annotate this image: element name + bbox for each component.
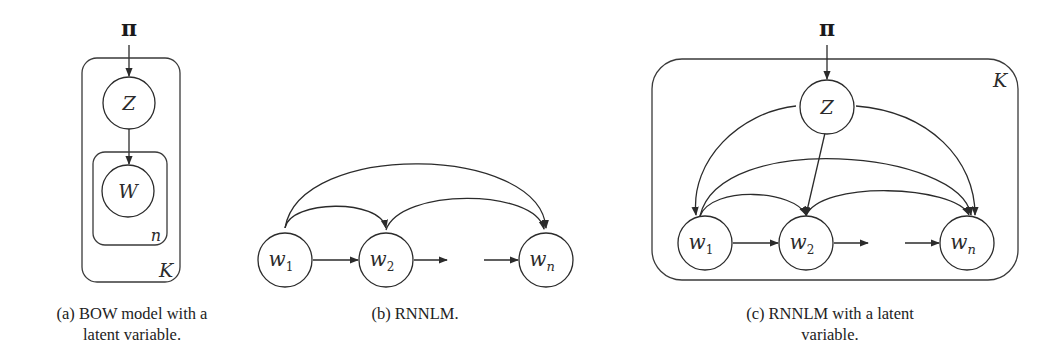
- plate-k-label: K: [158, 259, 175, 281]
- edge-z-to-w2: [806, 133, 825, 215]
- plate-n-label: n: [151, 226, 161, 245]
- caption-a: (a) BOW model with a latent variable.: [12, 303, 252, 345]
- caption-c-line2: variable.: [695, 324, 965, 345]
- caption-a-line2: latent variable.: [12, 324, 252, 345]
- figure-c-rnnlm-latent: π K Z w1 w2 wn: [652, 15, 1018, 280]
- prior-pi-label: π: [819, 15, 835, 41]
- figure-b-rnnlm: w1 w2 wn: [258, 164, 573, 287]
- caption-b: (b) RNNLM.: [345, 303, 485, 324]
- caption-c-line1: (c) RNNLM with a latent: [695, 303, 965, 324]
- node-w-label: W: [118, 180, 139, 202]
- arc-w2-to-wn: [806, 191, 969, 216]
- figure-a-bow-model: π Z W n K: [82, 15, 180, 282]
- edge-z-to-wn: [856, 106, 975, 215]
- arc-w1-to-wn: [700, 159, 971, 216]
- node-z-label: Z: [121, 92, 136, 114]
- caption-b-line1: (b) RNNLM.: [345, 303, 485, 324]
- arc-w1-to-wn: [285, 164, 546, 228]
- caption-c: (c) RNNLM with a latent variable.: [695, 303, 965, 345]
- caption-a-line1: (a) BOW model with a: [12, 303, 252, 324]
- arc-w2-to-wn: [386, 198, 544, 230]
- plate-k-label: K: [992, 69, 1009, 91]
- arc-w1-to-w2: [700, 194, 806, 216]
- prior-pi-label: π: [121, 15, 137, 41]
- node-z-label: Z: [819, 96, 834, 118]
- arc-w1-to-w2: [285, 206, 386, 228]
